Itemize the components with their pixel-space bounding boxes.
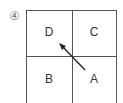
arrow-a-to-d-icon — [0, 0, 123, 103]
